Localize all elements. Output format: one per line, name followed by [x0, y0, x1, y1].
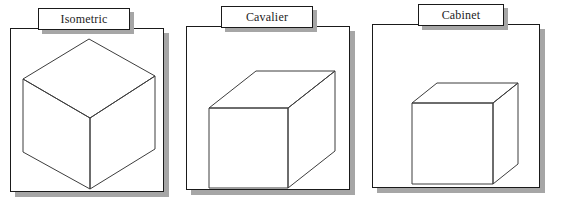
label-cavalier-text: Cavalier [246, 11, 288, 23]
panel-cabinet-frame [372, 24, 540, 188]
label-isometric: Isometric [38, 8, 130, 30]
panel-isometric-frame [10, 28, 164, 192]
label-cabinet-text: Cabinet [442, 9, 481, 21]
panel-cavalier-frame [186, 26, 350, 190]
label-cabinet: Cabinet [418, 4, 504, 26]
pictorial-projection-figure: Isometric Cavalier [0, 0, 561, 216]
label-isometric-text: Isometric [60, 13, 107, 25]
label-cavalier: Cavalier [221, 6, 313, 28]
